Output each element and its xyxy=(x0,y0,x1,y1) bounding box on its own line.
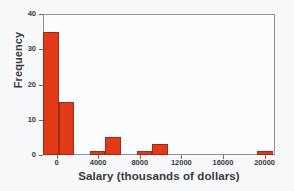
histogram-bar xyxy=(90,151,106,155)
y-tick-label: 10 xyxy=(10,116,36,124)
histogram-bar xyxy=(43,32,59,155)
histogram-bar xyxy=(105,137,121,155)
histogram-bar xyxy=(257,151,273,155)
x-tick-label: 16000 xyxy=(203,159,243,167)
x-tick-label: 4000 xyxy=(78,159,118,167)
histogram-bar xyxy=(152,144,168,155)
x-tick-label: 12000 xyxy=(161,159,201,167)
x-tick-label: 0 xyxy=(37,159,77,167)
histogram-bar xyxy=(59,102,75,155)
y-tick-label: 0 xyxy=(10,151,36,159)
plot-area xyxy=(43,14,275,155)
x-axis-title: Salary (thousands of dollars) xyxy=(43,170,275,182)
y-tick-mark xyxy=(39,155,43,156)
y-axis-title: Frequency xyxy=(12,12,24,108)
x-tick-label: 20000 xyxy=(245,159,285,167)
x-tick-label: 8000 xyxy=(120,159,160,167)
histogram-bar xyxy=(137,151,153,155)
histogram-chart: 010203040 040008000120001600020000 Frequ… xyxy=(0,0,294,191)
